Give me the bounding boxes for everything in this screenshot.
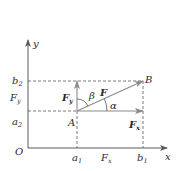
y-tick-a2: a2 [12,116,22,129]
projection-fy-label: Fy [9,92,21,105]
angle-arc-beta [77,99,88,106]
angle-arc-alpha [104,99,107,111]
origin-label: O [15,146,23,157]
vector-diagram: y x O b2 a2 Fy a1 Fx b1 A B F Fy Fx α β [0,0,185,171]
angle-beta-label: β [88,90,95,101]
vector-fy-label: Fy [61,92,74,105]
y-axis-label: y [32,38,39,49]
projection-fx-label: Fx [100,152,112,165]
x-tick-b1: b1 [137,152,148,165]
point-b-label: B [144,74,152,85]
dashed-guides [28,81,143,148]
y-tick-b2: b2 [12,75,23,88]
angle-alpha-label: α [110,100,117,111]
vector-f-label: F [99,87,108,98]
point-a-label: A [67,117,75,128]
x-axis-label: x [165,151,171,162]
vector-fx-label: Fx [128,119,140,132]
x-tick-a1: a1 [72,152,82,165]
